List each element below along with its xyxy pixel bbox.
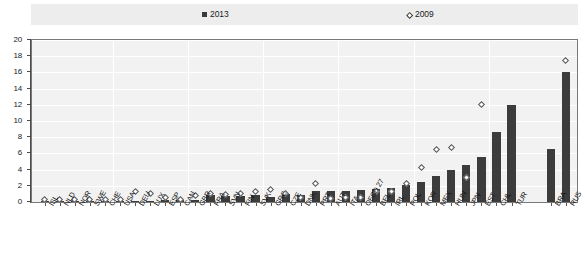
x-axis-labels: ISLNLDNORSWECHEUSADEULUXESPCANGBRFRASVNF… bbox=[0, 203, 585, 258]
y-axis-tick-label: 4 bbox=[0, 164, 22, 173]
legend-item-2013: 2013 bbox=[202, 4, 229, 25]
diamond-point bbox=[448, 144, 455, 151]
y-axis-tick bbox=[27, 39, 31, 40]
y-axis-tick-label: 16 bbox=[0, 67, 22, 76]
y-axis-tick bbox=[27, 136, 31, 137]
diamond-point bbox=[252, 188, 259, 195]
legend-item-2009: 2009 bbox=[406, 4, 434, 25]
y-axis-tick-label: 10 bbox=[0, 116, 22, 125]
y-axis-tick-label: 14 bbox=[0, 83, 22, 92]
diamond-point bbox=[418, 164, 425, 171]
y-axis-tick bbox=[27, 201, 31, 202]
diamond-point bbox=[312, 180, 319, 187]
y-axis-tick bbox=[27, 71, 31, 72]
chart-legend: 2013 2009 bbox=[31, 4, 578, 25]
bar bbox=[507, 105, 515, 202]
data-series-layer bbox=[32, 40, 577, 202]
y-axis-tick-label: 2 bbox=[0, 180, 22, 189]
y-axis-tick-label: 12 bbox=[0, 99, 22, 108]
y-axis-tick-label: 20 bbox=[0, 35, 22, 44]
diamond-marker-icon bbox=[406, 12, 412, 18]
y-axis-tick bbox=[27, 185, 31, 186]
y-axis-tick bbox=[27, 152, 31, 153]
y-axis-tick bbox=[27, 120, 31, 121]
diamond-point bbox=[433, 146, 440, 153]
diamond-point bbox=[562, 57, 569, 64]
chart-root: 2013 2009 02468101214161820 ISLNLDNORSWE… bbox=[0, 0, 585, 258]
y-axis-tick-label: 8 bbox=[0, 132, 22, 141]
y-axis-tick-label: 18 bbox=[0, 51, 22, 60]
legend-label-2009: 2009 bbox=[415, 10, 434, 19]
y-axis-tick-label: 6 bbox=[0, 148, 22, 157]
y-axis: 02468101214161820 bbox=[24, 35, 31, 207]
y-axis-tick bbox=[27, 169, 31, 170]
y-axis-tick bbox=[27, 104, 31, 105]
square-marker-icon bbox=[202, 12, 207, 17]
bar bbox=[492, 132, 500, 202]
bar bbox=[562, 72, 570, 202]
y-axis-tick bbox=[27, 88, 31, 89]
y-axis-tick bbox=[27, 55, 31, 56]
bar bbox=[547, 149, 555, 202]
legend-label-2013: 2013 bbox=[210, 10, 229, 19]
diamond-point bbox=[478, 101, 485, 108]
